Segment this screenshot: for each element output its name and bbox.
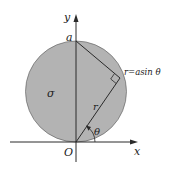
theta-label: θ xyxy=(94,126,100,137)
point-a-label: a xyxy=(66,31,73,44)
y-axis-label: y xyxy=(63,11,71,24)
origin-label: O xyxy=(64,146,73,159)
y-axis-arrow-icon xyxy=(74,14,79,22)
x-axis-arrow-icon xyxy=(130,140,138,145)
x-axis-label: x xyxy=(134,145,141,158)
region-sigma-label: σ xyxy=(47,87,55,100)
curve-equation-label: r=asin θ xyxy=(124,67,161,77)
polar-circle-diagram: y x O a σ r θ r=asin θ xyxy=(0,0,170,171)
